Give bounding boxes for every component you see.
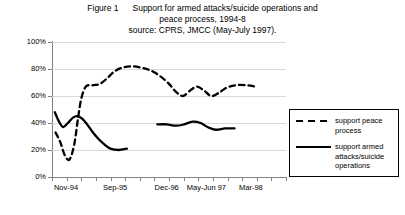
y-axis-tick-label: 20%: [12, 145, 46, 154]
legend-label-peace-process: support peace process: [335, 116, 397, 135]
chart-title-line-1: Figure 1Support for armed attacks/suicid…: [0, 3, 405, 14]
y-axis-tick-label: 100%: [12, 37, 46, 46]
x-axis-tick-mark: [96, 177, 97, 181]
x-axis-tick-mark: [67, 177, 68, 181]
legend-dashed-line-icon: [295, 116, 331, 126]
chart-plot-lines: [52, 42, 286, 177]
figure-label: Figure 1: [87, 3, 118, 14]
y-axis-tick-label: 0%: [12, 172, 46, 181]
x-axis-tick-mark: [125, 177, 126, 181]
x-axis-tick-mark: [81, 177, 82, 181]
x-axis-tick-mark: [184, 177, 185, 181]
x-axis-tick-mark: [154, 177, 155, 181]
series-line-peace-process: [56, 66, 256, 160]
legend-solid-line-icon: [295, 142, 331, 152]
x-axis-tick-mark: [257, 177, 258, 181]
x-axis-tick-mark: [111, 177, 112, 181]
x-axis-tick-mark: [140, 177, 141, 181]
x-axis-tick-mark: [286, 177, 287, 181]
legend-item-peace-process: support peace process: [295, 116, 397, 135]
x-axis-tick-mark: [271, 177, 272, 181]
x-axis-tick-mark: [228, 177, 229, 181]
y-axis-tick-label: 40%: [12, 118, 46, 127]
chart-title-block: Figure 1Support for armed attacks/suicid…: [0, 3, 405, 36]
figure-container: Figure 1Support for armed attacks/suicid…: [0, 0, 405, 215]
x-axis-tick-mark: [213, 177, 214, 181]
chart-title-line-2: peace process, 1994-8: [0, 14, 405, 25]
chart-source-line: source: CPRS, JMCC (May-July 1997).: [0, 25, 405, 36]
series-line-armed-attacks-seg0: [55, 112, 127, 150]
y-axis-tick-label: 60%: [12, 91, 46, 100]
legend-item-armed-attacks: support armed attacks/suicide operations: [295, 142, 397, 171]
legend-label-armed-attacks: support armed attacks/suicide operations: [335, 142, 397, 171]
x-axis-tick-mark: [52, 177, 53, 181]
x-axis-tick-mark: [242, 177, 243, 181]
y-axis-tick-label: 80%: [12, 64, 46, 73]
x-axis-tick-mark: [198, 177, 199, 181]
x-axis-tick-label: Mar-98: [221, 183, 281, 192]
chart-title-text-1: Support for armed attacks/suicide operat…: [132, 3, 317, 13]
chart-legend: support peace process support armed atta…: [289, 109, 399, 177]
series-line-armed-attacks-seg1: [157, 122, 234, 130]
x-axis-tick-mark: [169, 177, 170, 181]
